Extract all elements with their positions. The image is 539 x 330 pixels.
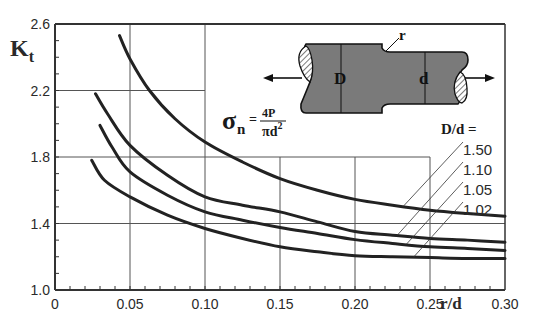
- curve-Dd-1.05: [100, 125, 505, 250]
- y-tick-label: 2.6: [31, 16, 51, 32]
- x-axis-title: r/d: [440, 294, 462, 313]
- formula-denominator: πd2: [262, 120, 282, 139]
- formula-subscript: n: [237, 121, 246, 137]
- legend-label-1.10: 1.10: [463, 161, 492, 178]
- y-axis-title: Kt: [10, 35, 35, 65]
- y-axis-title-subscript: t: [29, 48, 35, 65]
- y-tick-label: 1.8: [31, 149, 51, 165]
- formula-sigma: σ: [222, 106, 236, 135]
- formula-numerator: 4P: [262, 106, 275, 120]
- x-tick-label: 0: [51, 296, 59, 312]
- legend-label-1.02: 1.02: [463, 201, 492, 218]
- x-tick-label: 0.05: [116, 296, 143, 312]
- curve-Dd-1.02: [92, 160, 505, 258]
- stepped-shaft-diagram: D d r: [263, 27, 495, 113]
- y-tick-label: 1.4: [31, 216, 51, 232]
- y-tick-label: 2.2: [31, 83, 51, 99]
- arrow-right-icon: [485, 74, 495, 82]
- label-r: r: [399, 27, 406, 43]
- label-D: D: [334, 69, 346, 88]
- x-tick-label: 0.15: [266, 296, 293, 312]
- x-tick-label: 0.30: [491, 296, 518, 312]
- x-tick-label: 0.20: [341, 296, 368, 312]
- label-d: d: [419, 69, 429, 88]
- formula-equals: =: [249, 112, 257, 127]
- legend-label-1.50: 1.50: [463, 141, 492, 158]
- nominal-stress-formula: σ n = 4P πd2: [222, 106, 286, 139]
- legend: 1.501.101.051.02: [463, 141, 492, 218]
- arrow-left-icon: [263, 74, 273, 82]
- curve-Dd-1.10: [96, 94, 506, 242]
- legend-label-1.05: 1.05: [463, 181, 492, 198]
- stress-concentration-chart: 00.050.100.150.200.250.301.01.41.82.22.6…: [0, 0, 539, 330]
- legend-title: D/d =: [441, 121, 477, 137]
- fillet-leader-line: [386, 38, 399, 51]
- x-tick-label: 0.10: [191, 296, 218, 312]
- shaft-body: [301, 44, 468, 113]
- y-tick-label: 1.0: [31, 282, 51, 298]
- leader-line-1.50: [403, 142, 463, 207]
